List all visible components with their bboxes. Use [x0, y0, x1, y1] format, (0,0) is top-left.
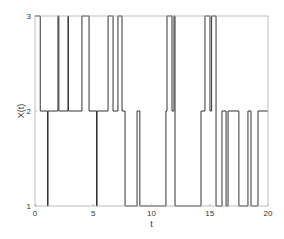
y-axis-label: X(t)	[16, 104, 26, 119]
x-tick-label: 20	[264, 209, 273, 218]
x-tick-label: 15	[205, 209, 214, 218]
x-tick-label: 0	[33, 209, 38, 218]
y-tick-label: 2	[27, 107, 32, 116]
x-tick-label: 10	[147, 209, 156, 218]
y-tick-label: 1	[27, 202, 32, 211]
y-tick-label: 3	[27, 12, 32, 21]
x-tick-label: 5	[91, 209, 96, 218]
step-chart: 05101520 123 t X(t)	[0, 0, 284, 239]
x-axis-label: t	[150, 219, 153, 229]
